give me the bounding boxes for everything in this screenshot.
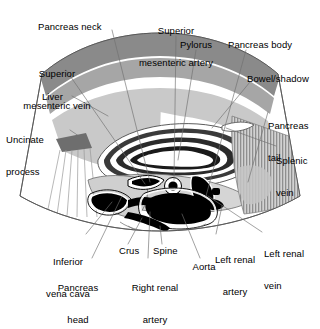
label-superior-mesenteric-artery: Superior mesenteric artery (120, 5, 232, 89)
label-splenic-vein: Splenic vein (276, 135, 308, 219)
label-line: vein (264, 281, 304, 292)
label-line: Superior (120, 26, 232, 37)
label-spine: Spine (153, 246, 178, 257)
label-right-renal-artery: Right renal artery (118, 262, 192, 329)
label-pancreas-body: Pancreas body (228, 40, 292, 51)
label-pancreas-neck: Pancreas neck (38, 22, 102, 33)
label-line: artery (118, 315, 192, 326)
label-line: Pancreas (40, 283, 116, 294)
label-liver: Liver (42, 92, 63, 103)
label-pancreas-head: Pancreas head (40, 262, 116, 329)
label-line: Pancreas (268, 121, 309, 132)
label-line: Left renal (264, 249, 304, 260)
label-crus: Crus (119, 246, 139, 257)
inferior-vena-cava-structure (91, 193, 128, 213)
label-line: Superior (4, 69, 110, 80)
label-line: Right renal (118, 283, 192, 294)
label-left-renal-artery: Left renal artery (202, 234, 268, 318)
label-line: vein (276, 188, 308, 199)
label-uncinate-process: Uncinate process (6, 114, 44, 198)
label-left-renal-vein: Left renal vein (264, 228, 304, 312)
label-line: artery (202, 287, 268, 298)
label-line: Uncinate (6, 135, 44, 146)
label-line: head (40, 315, 116, 326)
label-line: mesenteric artery (120, 58, 232, 69)
label-line: process (6, 167, 44, 178)
label-aorta: Aorta (182, 262, 226, 273)
label-bowel-shadow: Bowel/shadow (247, 74, 309, 85)
label-pylorus: Pylorus (180, 40, 212, 51)
label-line: Splenic (276, 156, 308, 167)
